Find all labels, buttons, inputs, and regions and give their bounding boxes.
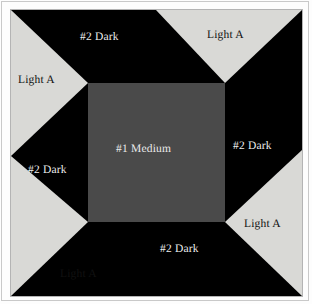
label-bottom-light: Light A bbox=[60, 269, 97, 281]
label-bottom-dark: #2 Dark bbox=[160, 244, 199, 256]
quilt-block-figure: #2 Dark Light A Light A #2 Dark #2 Dark … bbox=[0, 0, 312, 304]
label-left-light: Light A bbox=[18, 75, 55, 87]
label-right-light: Light A bbox=[244, 219, 281, 231]
label-top-dark: #2 Dark bbox=[80, 32, 119, 44]
label-top-light: Light A bbox=[207, 30, 244, 42]
label-right-dark: #2 Dark bbox=[233, 141, 272, 153]
label-left-dark: #2 Dark bbox=[28, 165, 67, 177]
quilt-block: #2 Dark Light A Light A #2 Dark #2 Dark … bbox=[11, 10, 302, 296]
label-center-medium: #1 Medium bbox=[116, 144, 171, 156]
